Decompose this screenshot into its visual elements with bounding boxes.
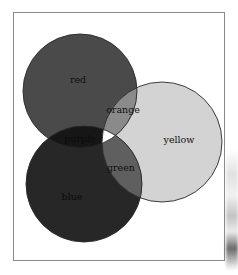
label-orange: orange xyxy=(106,104,140,115)
venn-diagram: red orange yellow purple green blue xyxy=(0,0,238,275)
page-edge-shadow xyxy=(226,150,238,270)
label-purple: purple xyxy=(64,133,96,144)
label-blue: blue xyxy=(62,191,83,202)
label-yellow: yellow xyxy=(163,134,195,145)
venn-diagram-page: red orange yellow purple green blue xyxy=(0,0,238,275)
label-red: red xyxy=(70,74,86,85)
label-green: green xyxy=(107,162,135,173)
